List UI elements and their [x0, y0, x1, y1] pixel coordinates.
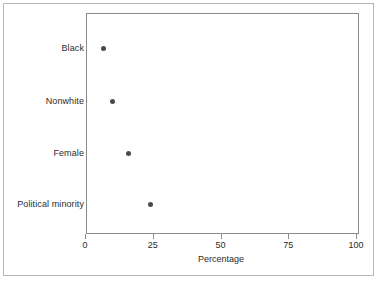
y-axis-label: Black	[61, 43, 84, 53]
x-axis-tick-mark	[153, 234, 154, 239]
x-axis-title-text: Percentage	[198, 254, 244, 264]
x-axis-tick-label: 75	[283, 240, 293, 250]
x-axis-tick-label: 100	[348, 240, 363, 250]
y-axis-label: Political minority	[17, 199, 84, 209]
x-axis-tick-mark	[356, 234, 357, 239]
plot-panel-border	[86, 13, 359, 234]
x-axis-tick-mark	[221, 234, 222, 239]
x-axis-tick-mark	[85, 234, 86, 239]
y-axis-label: Nonwhite	[46, 96, 84, 106]
x-axis-tick-label: 25	[148, 240, 158, 250]
y-axis-label: Female	[53, 148, 84, 158]
x-axis-title: Percentage	[0, 254, 380, 264]
x-axis-tick-label: 0	[82, 240, 87, 250]
figure-container: BlackNonwhiteFemalePolitical minority 02…	[0, 0, 380, 283]
x-axis-tick-mark	[288, 234, 289, 239]
x-axis-tick-label: 50	[215, 240, 225, 250]
